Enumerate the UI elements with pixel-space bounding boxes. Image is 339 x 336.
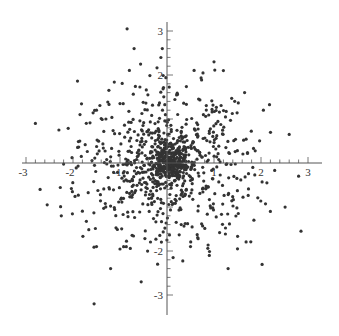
data-point (77, 194, 80, 197)
data-point (149, 240, 152, 243)
data-point (71, 190, 74, 193)
data-point (174, 198, 177, 201)
data-point (86, 150, 89, 153)
data-point (236, 235, 239, 238)
data-point (153, 200, 156, 203)
data-point (208, 152, 211, 155)
data-point (150, 114, 153, 117)
data-point (138, 143, 141, 146)
x-tick-label: -1 (112, 166, 121, 178)
data-point (155, 153, 158, 156)
data-point (144, 229, 147, 232)
data-point (114, 214, 117, 217)
data-point (196, 233, 199, 236)
data-point (185, 85, 188, 88)
data-point (140, 151, 143, 154)
data-point (170, 128, 173, 131)
data-point (206, 213, 209, 216)
data-point (102, 207, 105, 210)
data-point (141, 202, 144, 205)
data-point (201, 224, 204, 227)
data-point (184, 147, 187, 150)
data-point (135, 139, 138, 142)
data-point (67, 127, 70, 130)
x-tick-label: 3 (305, 166, 311, 178)
data-point (153, 165, 156, 168)
data-point (200, 76, 203, 79)
data-point (144, 170, 147, 173)
data-point (264, 202, 267, 205)
data-point (172, 143, 175, 146)
data-point (95, 245, 98, 248)
data-point (147, 197, 150, 200)
data-point (145, 88, 148, 91)
data-point (160, 220, 163, 223)
data-point (172, 137, 175, 140)
data-point (180, 126, 183, 129)
data-point (168, 86, 171, 89)
data-point (81, 235, 84, 238)
data-point (231, 204, 234, 207)
data-point (256, 196, 259, 199)
data-point (187, 146, 190, 149)
data-point (149, 163, 152, 166)
data-point (142, 121, 145, 124)
data-point (118, 247, 121, 250)
data-point (237, 101, 240, 104)
data-point (139, 166, 142, 169)
data-point (234, 150, 237, 153)
data-point (169, 208, 172, 211)
data-point (207, 243, 210, 246)
data-point (253, 173, 256, 176)
data-point (219, 123, 222, 126)
data-point (168, 172, 171, 175)
data-point (217, 152, 220, 155)
data-point (229, 119, 232, 122)
data-point (197, 175, 200, 178)
data-point (146, 250, 149, 253)
data-point (140, 188, 143, 191)
data-point (179, 193, 182, 196)
data-point (99, 199, 102, 202)
data-point (246, 152, 249, 155)
data-point (178, 146, 181, 149)
data-point (149, 190, 152, 193)
data-point (213, 141, 216, 144)
data-point (212, 145, 215, 148)
data-point (171, 203, 174, 206)
data-point (113, 81, 116, 84)
data-point (155, 170, 158, 173)
data-point (228, 222, 231, 225)
data-point (152, 177, 155, 180)
data-point (105, 158, 108, 161)
data-point (139, 63, 142, 66)
data-point (70, 187, 73, 190)
data-point (153, 131, 156, 134)
data-point (197, 172, 200, 175)
data-point (87, 191, 90, 194)
data-point (132, 184, 135, 187)
scatter-plot: -3-2-112332-2-3 (0, 0, 339, 336)
data-point (299, 230, 302, 233)
data-point (184, 168, 187, 171)
data-point (162, 182, 165, 185)
data-point (113, 208, 116, 211)
data-point (133, 130, 136, 133)
data-point (97, 140, 100, 143)
data-point (223, 194, 226, 197)
data-point (140, 128, 143, 131)
data-point (175, 93, 178, 96)
data-point (113, 132, 116, 135)
data-point (193, 168, 196, 171)
data-point (212, 60, 215, 63)
data-point (175, 141, 178, 144)
data-point (163, 151, 166, 154)
data-point (254, 149, 257, 152)
data-point (163, 186, 166, 189)
data-point (126, 131, 129, 134)
data-point (224, 226, 227, 229)
data-point (241, 196, 244, 199)
data-point (178, 233, 181, 236)
data-point (273, 169, 276, 172)
data-point (92, 180, 95, 183)
